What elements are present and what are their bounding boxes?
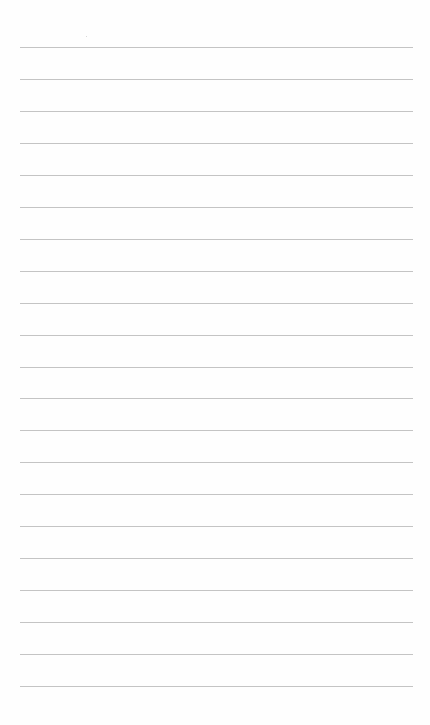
ruled-line [20,335,413,336]
ruled-line [20,271,413,272]
ruled-line [20,494,413,495]
ruled-line [20,47,413,48]
ruled-line [20,526,413,527]
ruled-line [20,239,413,240]
ruled-line [20,303,413,304]
ruled-line [20,367,413,368]
ruled-line [20,175,413,176]
paper-speck [86,36,87,37]
ruled-line [20,143,413,144]
ruled-line [20,654,413,655]
ruled-line [20,558,413,559]
ruled-line [20,462,413,463]
lined-paper-page [0,0,430,725]
ruled-line [20,79,413,80]
ruled-line [20,622,413,623]
ruled-line [20,686,413,687]
ruled-line [20,111,413,112]
ruled-line [20,590,413,591]
ruled-line [20,207,413,208]
ruled-line [20,430,413,431]
ruled-line [20,398,413,399]
